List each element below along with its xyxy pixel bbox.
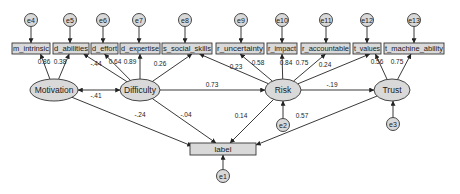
indicator-d_expertise[interactable]: d_expertise bbox=[120, 43, 160, 54]
error-e6: e6 bbox=[97, 14, 110, 27]
svg-text:e1: e1 bbox=[219, 173, 227, 180]
svg-text:e8: e8 bbox=[181, 17, 189, 24]
path-coefficient: 0.57 bbox=[296, 112, 309, 119]
sem-diagram: m_intrinsice4d_abilitiese5d_efforte6d_ex… bbox=[0, 0, 460, 194]
error-e4: e4 bbox=[25, 14, 38, 27]
loading-value: 0.23 bbox=[230, 63, 243, 70]
error-e13: e13 bbox=[408, 14, 421, 27]
loading-value: 0.84 bbox=[280, 59, 293, 66]
error-e12: e12 bbox=[361, 14, 374, 27]
indicator-d_abilities[interactable]: d_abilities bbox=[53, 43, 89, 54]
loading-value: 0.58 bbox=[252, 59, 265, 66]
path-coefficient: -.19 bbox=[326, 81, 338, 88]
svg-text:e3: e3 bbox=[389, 121, 397, 128]
indicator-d_effort[interactable]: d_effort bbox=[91, 43, 118, 54]
latent-difficulty[interactable]: Difficulty bbox=[120, 79, 160, 101]
path-coefficient: -.41 bbox=[90, 92, 102, 99]
error-e1: e1 bbox=[217, 170, 230, 183]
svg-text:e2: e2 bbox=[279, 122, 287, 129]
loading-value: 0.38 bbox=[54, 58, 67, 65]
indicator-label: t_machine_ability bbox=[385, 44, 443, 53]
latent-label: Motivation bbox=[35, 85, 74, 95]
svg-text:e4: e4 bbox=[27, 17, 35, 24]
svg-text:e13: e13 bbox=[408, 17, 420, 24]
indicator-r_accountable[interactable]: r_accountable bbox=[301, 43, 350, 54]
path-Trust-label bbox=[256, 96, 377, 145]
loading-value: 0.75 bbox=[296, 59, 309, 66]
latent-label: Difficulty bbox=[124, 85, 157, 95]
indicator-r_uncertainty[interactable]: r_uncertainty bbox=[216, 43, 264, 54]
latent-motivation[interactable]: Motivation bbox=[30, 79, 78, 101]
latent-trust[interactable]: Trust bbox=[374, 79, 410, 101]
svg-text:e10: e10 bbox=[276, 17, 288, 24]
latent-risk[interactable]: Risk bbox=[265, 79, 301, 101]
error-e10: e10 bbox=[276, 14, 289, 27]
indicator-label: s_social_skills bbox=[163, 44, 211, 53]
nodes: m_intrinsice4d_abilitiese5d_efforte6d_ex… bbox=[12, 14, 444, 183]
path-Difficulty-label bbox=[152, 99, 216, 143]
loading-Difficulty-s_social_skills bbox=[152, 54, 192, 81]
path-Risk-label bbox=[230, 99, 274, 143]
indicator-s_social_skills[interactable]: s_social_skills bbox=[162, 43, 212, 54]
error-e9: e9 bbox=[235, 14, 248, 27]
loading-Risk-t_values bbox=[298, 54, 370, 84]
svg-text:e7: e7 bbox=[135, 17, 143, 24]
indicator-m_intrinsic[interactable]: m_intrinsic bbox=[12, 43, 50, 54]
error-e5: e5 bbox=[64, 14, 77, 27]
error-e3: e3 bbox=[387, 118, 400, 131]
indicator-label: d_abilities bbox=[54, 44, 88, 53]
indicator-label: r_impact bbox=[268, 44, 297, 53]
loading-value: 0.24 bbox=[319, 61, 332, 68]
loading-value: 0.56 bbox=[371, 58, 384, 65]
indicator-label: r_uncertainty bbox=[217, 44, 263, 53]
loading-value: 0.86 bbox=[38, 58, 51, 65]
indicator-label: t_values bbox=[354, 44, 380, 53]
svg-text:e11: e11 bbox=[320, 17, 331, 24]
svg-text:e12: e12 bbox=[361, 17, 373, 24]
loading-value: -.44 bbox=[90, 60, 102, 67]
indicator-label: d_effort bbox=[92, 44, 118, 53]
svg-text:e5: e5 bbox=[66, 17, 74, 24]
indicator-t_machine_ability[interactable]: t_machine_ability bbox=[384, 43, 444, 54]
path-coefficient: 0.73 bbox=[206, 81, 219, 88]
error-e7: e7 bbox=[133, 14, 146, 27]
latent-label: Risk bbox=[275, 85, 292, 95]
path-coefficient: -.24 bbox=[134, 111, 146, 118]
outcome-label-box[interactable]: label bbox=[190, 143, 256, 155]
loading-value: 0.26 bbox=[154, 60, 167, 67]
loading-value: 0.64 bbox=[109, 58, 122, 65]
path-coefficient: 0.14 bbox=[235, 112, 248, 119]
indicator-r_impact[interactable]: r_impact bbox=[267, 43, 297, 54]
indicator-label: r_accountable bbox=[302, 44, 350, 53]
indicator-label: m_intrinsic bbox=[13, 44, 49, 53]
svg-text:e9: e9 bbox=[237, 17, 245, 24]
loading-Risk-r_impact bbox=[282, 54, 283, 79]
error-e11: e11 bbox=[320, 14, 333, 27]
error-e8: e8 bbox=[179, 14, 192, 27]
error-e2: e2 bbox=[277, 119, 290, 132]
coefficient-labels: 0.860.38-.440.640.890.260.230.580.840.75… bbox=[38, 58, 404, 119]
indicator-t_values[interactable]: t_values bbox=[353, 43, 381, 54]
indicator-label: d_expertise bbox=[121, 44, 160, 53]
svg-text:e6: e6 bbox=[99, 17, 107, 24]
loading-value: 0.89 bbox=[124, 58, 137, 65]
outcome-label: label bbox=[215, 145, 232, 154]
latent-label: Trust bbox=[382, 85, 402, 95]
loading-value: 0.75 bbox=[391, 58, 404, 65]
path-Motivation-label bbox=[72, 97, 192, 146]
path-coefficient: -.04 bbox=[180, 111, 192, 118]
